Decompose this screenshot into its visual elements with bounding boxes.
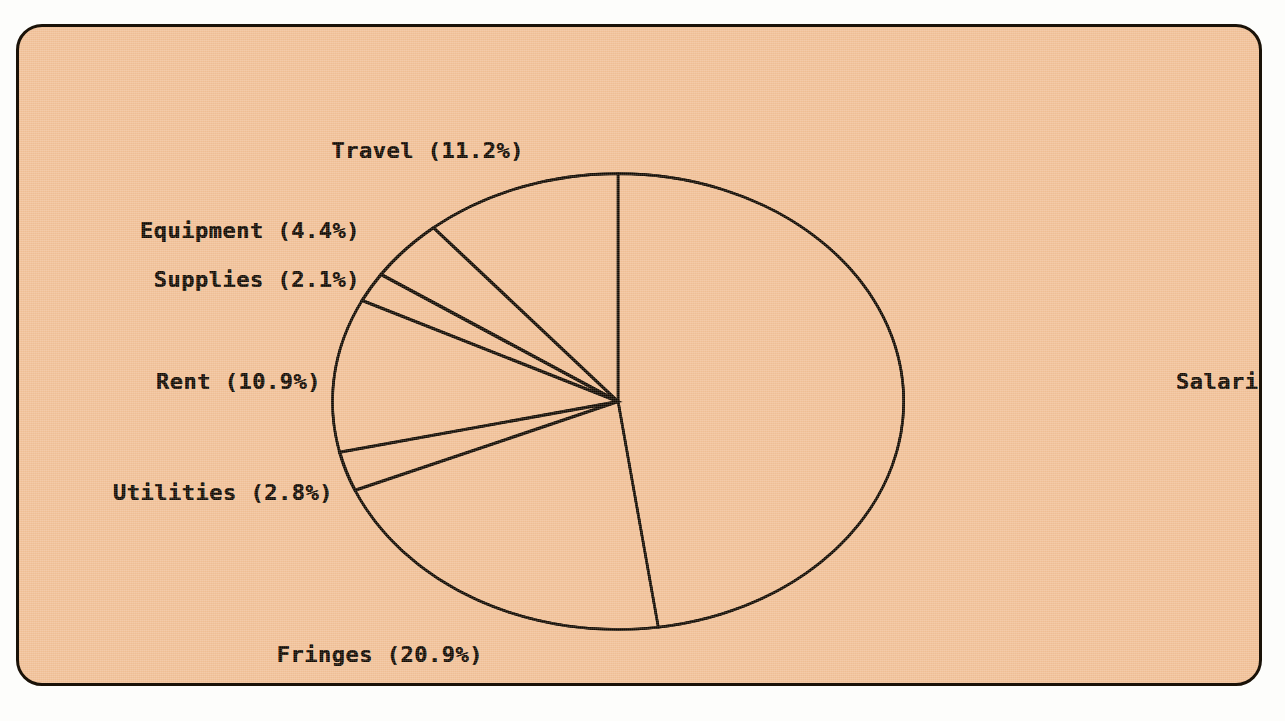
pie-slice-salaries[interactable] (618, 174, 904, 628)
pie-chart-plot (19, 27, 1259, 683)
pie-label-supplies: Supplies (2.1%) (154, 268, 360, 292)
leader-line-rent (326, 379, 477, 388)
screenshot-root: Salaries (47.8%)Fringes (20.9%)Utilities… (0, 0, 1285, 721)
pie-slice-equipment[interactable] (381, 228, 618, 402)
pie-label-salaries: Salaries (47.8%) (1176, 370, 1262, 394)
chart-frame: Salaries (47.8%)Fringes (20.9%)Utilities… (16, 24, 1262, 686)
leader-line-utilities (337, 437, 482, 489)
pie-chart-svg (19, 27, 1259, 683)
pie-label-utilities: Utilities (2.8%) (113, 481, 333, 505)
pie-label-equipment: Equipment (4.4%) (140, 219, 360, 243)
pie-label-rent: Rent (10.9%) (156, 370, 321, 394)
pie-slice-fringes[interactable] (355, 402, 658, 630)
pie-slice-travel[interactable] (433, 174, 618, 402)
pie-label-fringes: Fringes (20.9%) (277, 643, 483, 667)
leader-line-supplies (364, 278, 494, 345)
pie-label-travel: Travel (11.2%) (332, 139, 524, 163)
